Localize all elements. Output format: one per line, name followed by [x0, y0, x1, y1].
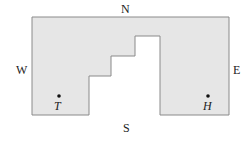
compass-west-label: W — [16, 64, 27, 76]
building-outline — [32, 17, 229, 115]
point-h-label: H — [203, 100, 212, 112]
point-t-label: T — [54, 100, 61, 112]
compass-north-label: N — [121, 3, 130, 15]
compass-east-label: E — [233, 64, 240, 76]
point-h-marker — [206, 94, 210, 98]
point-t-marker — [57, 94, 61, 98]
compass-south-label: S — [123, 122, 130, 134]
